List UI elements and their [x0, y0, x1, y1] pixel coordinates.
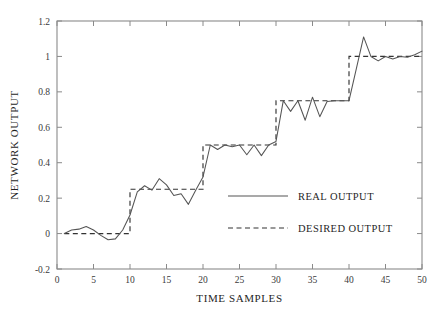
y-tick-label: 0 — [45, 229, 50, 239]
y-tick-label: 0.2 — [38, 194, 50, 204]
y-tick-label: 0.6 — [38, 123, 50, 133]
x-axis-title: TIME SAMPLES — [196, 292, 282, 304]
chart-legend: REAL OUTPUT DESIRED OUTPUT — [228, 191, 393, 234]
x-tick-label: 45 — [381, 275, 391, 285]
chart-figure: 05101520253035404550 -0.200.20.40.60.811… — [0, 0, 447, 317]
x-tick-label: 15 — [162, 275, 172, 285]
x-tick-label: 35 — [308, 275, 318, 285]
y-axis-tick-labels: -0.200.20.40.60.811.2 — [35, 17, 50, 275]
x-tick-label: 0 — [55, 275, 60, 285]
y-axis-title: NETWORK OUTPUT — [8, 90, 20, 200]
x-tick-label: 5 — [91, 275, 96, 285]
series-desired-output — [64, 56, 422, 233]
y-tick-label: 1.2 — [38, 17, 50, 27]
legend-entry-desired-output: DESIRED OUTPUT — [228, 223, 393, 234]
x-tick-label: 50 — [417, 275, 427, 285]
y-tick-label: 0.4 — [38, 158, 50, 168]
legend-label-desired-output: DESIRED OUTPUT — [298, 223, 393, 234]
series-real-output — [64, 37, 422, 240]
y-tick-label: 1 — [45, 52, 50, 62]
y-tick-label: 0.8 — [38, 87, 50, 97]
x-tick-label: 10 — [125, 275, 135, 285]
network-output-plot: 05101520253035404550 -0.200.20.40.60.811… — [0, 0, 447, 317]
x-tick-label: 30 — [271, 275, 281, 285]
x-tick-label: 25 — [235, 275, 245, 285]
x-tick-label: 20 — [198, 275, 208, 285]
x-axis-tick-labels: 05101520253035404550 — [55, 275, 427, 285]
legend-label-real-output: REAL OUTPUT — [298, 191, 374, 202]
legend-entry-real-output: REAL OUTPUT — [228, 191, 374, 202]
x-tick-label: 40 — [344, 275, 354, 285]
y-tick-label: -0.2 — [35, 265, 50, 275]
